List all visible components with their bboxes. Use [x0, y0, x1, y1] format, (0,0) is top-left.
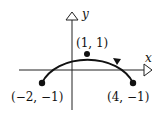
- direction-arrow-icon: [113, 58, 121, 65]
- point-left-label: (−2, −1): [11, 90, 63, 104]
- y-axis-arrow-icon: [66, 12, 78, 20]
- diagram: x y (1, 1) (−2, −1) (4, −1): [0, 0, 165, 114]
- point-top-label: (1, 1): [76, 36, 108, 50]
- point-left: [39, 80, 45, 86]
- point-top: [84, 51, 90, 57]
- x-axis-label: x: [145, 51, 152, 65]
- point-right-label: (4, −1): [107, 90, 149, 104]
- x-axis-arrow-icon: [144, 64, 152, 76]
- y-axis-label: y: [81, 7, 89, 21]
- curve-arc: [42, 60, 133, 83]
- point-right: [130, 80, 136, 86]
